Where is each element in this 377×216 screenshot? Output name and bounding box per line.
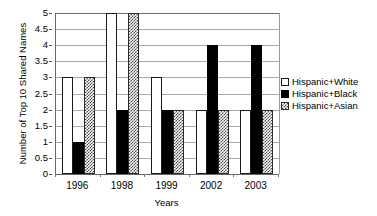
y-tick-mark [49,94,52,95]
x-tick-label: 2002 [188,180,234,192]
y-tick-mark [49,13,52,14]
x-tick-mark [55,174,56,177]
y-tick-mark [49,142,52,143]
legend-label: Hispanic+White [292,77,358,87]
y-tick-mark [49,174,52,175]
bar-group [145,13,190,174]
y-tick-label: 2.5 [35,89,48,99]
y-tick-label: 4 [43,40,48,50]
bar [173,110,184,174]
bar [62,77,73,174]
bar [262,110,273,174]
legend-item: Hispanic+Asian [281,100,377,111]
bar [84,77,95,174]
bar [128,13,139,174]
y-tick-label: 2 [43,105,48,115]
plot-right-border [279,13,280,174]
y-tick-label: 5 [43,8,48,18]
y-tick-mark [49,29,52,30]
bar [207,45,218,174]
bar [73,142,84,174]
y-tick-label: 0.5 [35,153,48,163]
y-tick-label: 3 [43,73,48,83]
bar [251,45,262,174]
bar [218,110,229,174]
y-tick-mark [49,110,52,111]
x-tick-mark [278,174,279,177]
x-tick-mark [189,174,190,177]
y-tick-mark [49,158,52,159]
legend-label: Hispanic+Asian [292,101,358,111]
bar-group [101,13,146,174]
x-axis-title: Years [55,197,278,208]
legend-item: Hispanic+White [281,76,377,87]
x-tick-label: 1999 [144,180,190,192]
bar [196,110,207,174]
y-tick-mark [49,126,52,127]
x-tick-label: 1998 [99,180,145,192]
bar-group [190,13,235,174]
y-tick-label: 0 [43,169,48,179]
bar [117,110,128,174]
y-tick-mark [49,61,52,62]
bar [106,13,117,174]
x-tick-label: 2003 [233,180,279,192]
x-tick-mark [100,174,101,177]
bar-chart: Number of Top 10 Shared Names 00.511.522… [0,0,377,216]
legend-label: Hispanic+Black [292,89,357,99]
bar [240,110,251,174]
legend-item: Hispanic+Black [281,88,377,99]
y-tick-label: 3.5 [35,57,48,67]
y-tick-mark [49,45,52,46]
legend-swatch-icon [281,90,289,98]
y-tick-label: 1.5 [35,121,48,131]
bar [162,110,173,174]
plot-area [55,13,279,175]
x-tick-mark [144,174,145,177]
legend-swatch-icon [281,78,289,86]
bar [151,77,162,174]
y-axis-tick-labels: 00.511.522.533.544.55 [20,8,52,174]
x-tick-mark [233,174,234,177]
x-tick-label: 1996 [54,180,100,192]
bar-group [234,13,279,174]
bar-group [56,13,101,174]
y-tick-label: 4.5 [35,24,48,34]
y-tick-label: 1 [43,137,48,147]
legend-swatch-icon [281,102,289,110]
y-tick-mark [49,77,52,78]
chart-legend: Hispanic+WhiteHispanic+BlackHispanic+Asi… [281,76,377,112]
